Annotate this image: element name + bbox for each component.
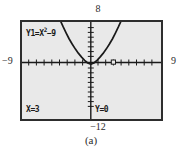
equation-suffix: −9 — [47, 29, 56, 38]
window-xmax-label: 9 — [171, 56, 176, 66]
trace-cursor — [111, 60, 115, 64]
y-axis — [88, 22, 94, 119]
equation-label: Y1=X2−9 — [26, 27, 56, 38]
window-ymax-label: 8 — [96, 4, 101, 14]
equation-prefix: Y1=X — [26, 29, 44, 38]
window-xmin-label: −9 — [2, 56, 13, 66]
x-coordinate-readout: X=3 — [26, 106, 39, 114]
calculator-screen: Y1=X2−9 X=3 Y=0 — [20, 20, 163, 121]
figure-caption: (a) — [0, 134, 182, 146]
calculator-figure: 8 −9 9 −12 — [0, 0, 182, 156]
plot-area: Y1=X2−9 X=3 Y=0 — [22, 22, 161, 119]
window-ymin-label: −12 — [90, 122, 106, 132]
y-coordinate-readout: Y=0 — [95, 106, 108, 114]
